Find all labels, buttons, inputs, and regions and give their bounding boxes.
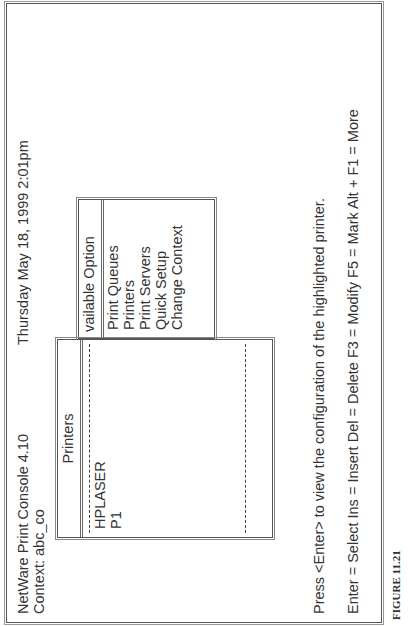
printers-list: HPLASER P1 <box>92 340 124 529</box>
list-top-divider <box>89 344 90 533</box>
print-console-screen: NetWare Print Console 4.10 Thursday May … <box>6 3 382 623</box>
function-key-bar: Enter = Select Ins = Insert Del = Delete… <box>345 109 361 614</box>
menu-item-quick-setup[interactable]: Quick Setup <box>153 200 169 330</box>
available-options-title: vailable Option <box>79 200 104 338</box>
menu-item-print-servers[interactable]: Print Servers <box>137 200 153 330</box>
menu-item-change-context[interactable]: Change Context <box>169 200 185 330</box>
datetime: Thursday May 18, 1999 2:01pm <box>15 140 31 345</box>
menu-item-printers[interactable]: Printers <box>121 200 137 330</box>
printers-list-title: Printers <box>58 340 83 537</box>
available-options-list: Print Queues Printers Print Servers Quic… <box>105 200 185 330</box>
figure-caption: FIGURE 11.21 <box>389 558 405 620</box>
help-prompt: Press <Enter> to view the configuration … <box>311 198 327 614</box>
context-label: Context: abc_co <box>31 509 47 614</box>
printers-list-box: Printers HPLASER P1 <box>57 339 273 538</box>
app-title: NetWare Print Console 4.10 <box>15 434 31 614</box>
printer-item-hplaser[interactable]: HPLASER <box>92 340 108 529</box>
list-bottom-divider <box>245 344 246 533</box>
menu-item-print-queues[interactable]: Print Queues <box>105 200 121 330</box>
figure: NetWare Print Console 4.10 Thursday May … <box>0 0 408 626</box>
printer-item-p1[interactable]: P1 <box>108 340 124 529</box>
available-options-menu: vailable Option Print Queues Printers Pr… <box>78 199 215 339</box>
figure-caption-text: FIGURE 11.21 <box>389 550 403 620</box>
